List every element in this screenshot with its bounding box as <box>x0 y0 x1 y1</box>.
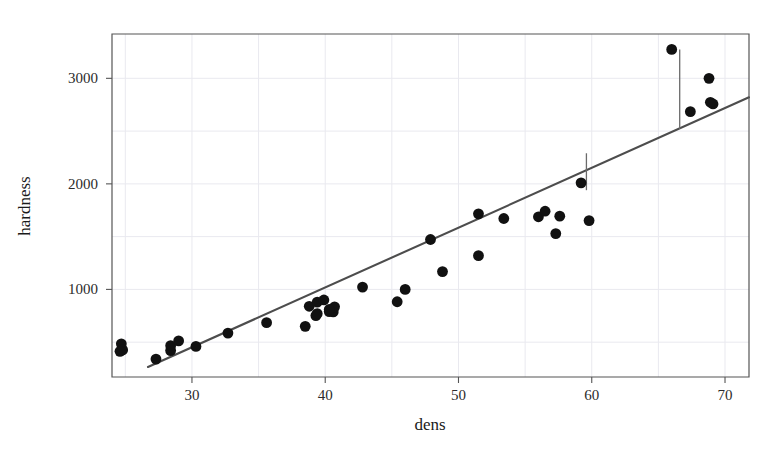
data-point <box>392 296 403 307</box>
data-point <box>425 234 436 245</box>
x-tick-label: 50 <box>451 387 466 403</box>
data-point <box>704 73 715 84</box>
data-point <box>312 308 323 319</box>
data-point <box>324 304 335 315</box>
y-axis-title: hardness <box>15 176 34 235</box>
data-point <box>400 284 411 295</box>
data-point <box>473 250 484 261</box>
x-tick-label: 30 <box>184 387 199 403</box>
data-point <box>300 321 311 332</box>
y-tick-label: 2000 <box>68 176 98 192</box>
data-point <box>473 208 484 219</box>
data-point <box>115 346 126 357</box>
data-point <box>318 295 329 306</box>
data-point <box>666 44 677 55</box>
plot-canvas: 3040506070 100020003000 dens hardness <box>0 0 774 457</box>
data-point <box>261 317 272 328</box>
scatter-plot-figure: 3040506070 100020003000 dens hardness <box>0 0 774 457</box>
data-point <box>173 336 184 347</box>
x-tick-label: 40 <box>318 387 333 403</box>
y-tick-label: 1000 <box>68 281 98 297</box>
data-point <box>498 213 509 224</box>
data-point <box>437 266 448 277</box>
x-axis-title: dens <box>414 415 445 434</box>
data-point <box>584 215 595 226</box>
x-tick-label: 60 <box>584 387 599 403</box>
data-point <box>223 328 234 339</box>
data-point <box>554 211 565 222</box>
x-tick-label: 70 <box>718 387 733 403</box>
y-tick-label: 3000 <box>68 70 98 86</box>
data-point <box>357 282 368 293</box>
data-point <box>705 97 716 108</box>
data-point <box>540 206 551 217</box>
data-point <box>576 177 587 188</box>
data-point <box>191 341 202 352</box>
data-point <box>550 228 561 239</box>
data-point <box>685 106 696 117</box>
data-point <box>151 354 162 365</box>
